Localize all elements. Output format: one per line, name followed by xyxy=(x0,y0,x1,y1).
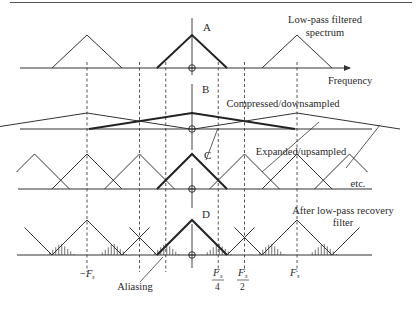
tick-neg-fs: −F s xyxy=(79,268,95,280)
aliased-tail xyxy=(25,228,53,256)
aliasing-label: Aliasing xyxy=(117,281,153,292)
tick-fs: F s xyxy=(289,267,300,279)
pointer-aliasing xyxy=(140,257,163,282)
desc-d-line1: After low-pass recovery xyxy=(292,205,394,216)
row-label-b: B xyxy=(202,83,209,95)
etc-label: etc. xyxy=(351,178,366,189)
svg-text:F: F xyxy=(212,267,220,278)
axis-label-frequency: Frequency xyxy=(328,75,373,86)
row-label-d: D xyxy=(202,208,210,220)
desc-a-line2: spectrum xyxy=(306,27,345,38)
aliased-tail xyxy=(235,228,263,256)
svg-text:s: s xyxy=(245,272,248,279)
axes xyxy=(17,68,372,255)
aliased-tail xyxy=(227,228,255,256)
svg-text:s: s xyxy=(92,273,95,280)
svg-text:s: s xyxy=(220,272,223,279)
svg-text:4: 4 xyxy=(215,282,220,292)
desc-c: Expanded/upsampled xyxy=(256,146,347,157)
svg-text:s: s xyxy=(297,272,300,279)
svg-text:F: F xyxy=(237,267,245,278)
spectrum-c-copy xyxy=(17,154,70,189)
row-label-a: A xyxy=(203,21,211,33)
svg-text:F: F xyxy=(289,267,297,278)
aliased-tail xyxy=(332,228,360,256)
desc-d-line2: filter xyxy=(333,217,354,228)
spectrum-b-copy xyxy=(194,113,400,129)
svg-text:2: 2 xyxy=(240,282,245,292)
aliasing-hatches xyxy=(50,244,337,255)
desc-a-line1: Low-pass filtered xyxy=(288,14,363,25)
pointer-c-to-b xyxy=(206,128,218,160)
svg-text:−F: −F xyxy=(79,268,93,279)
spectrum-b-copy xyxy=(0,113,190,129)
sampling-spectra-diagram: A B C D Low-pass filtered spectrum Frequ… xyxy=(0,0,418,309)
aliased-tail xyxy=(122,228,150,256)
desc-b: Compressed/downsampled xyxy=(226,98,340,109)
frequency-marker-lines xyxy=(87,18,297,272)
aliased-tail xyxy=(130,228,158,256)
pointer-downsampled xyxy=(346,125,380,168)
tick-fs-over-2: F s 2 xyxy=(237,267,249,292)
tick-fs-over-4: F s 4 xyxy=(212,267,224,292)
